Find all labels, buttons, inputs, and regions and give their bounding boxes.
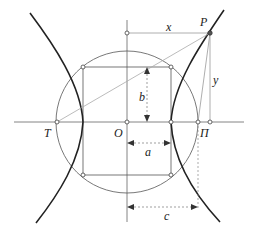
a-arrow-left: [127, 140, 134, 146]
label-O: O: [114, 126, 123, 140]
point-circle-axis: [196, 120, 200, 124]
point-rect-tl: [81, 65, 85, 69]
label-y: y: [212, 73, 219, 87]
label-b: b: [139, 90, 145, 104]
point-vertex: [169, 120, 173, 124]
label-c: c: [164, 209, 170, 223]
label-x: x: [165, 20, 172, 34]
point-Pi: [208, 120, 212, 124]
label-P: P: [199, 15, 208, 29]
label-Pi: Π: [199, 126, 210, 140]
c-arrow-left: [127, 204, 134, 210]
hyperbola-diagram: P x y b T O Π a c: [0, 0, 256, 231]
point-T: [55, 120, 59, 124]
c-arrow-right: [191, 204, 198, 210]
label-T: T: [44, 126, 52, 140]
a-arrow-right: [164, 140, 171, 146]
tangent-line-TP: [57, 33, 210, 122]
b-arrow-bottom: [144, 115, 150, 122]
point-rect-tr: [169, 65, 173, 69]
point-O: [125, 120, 129, 124]
label-a: a: [145, 145, 151, 159]
point-P: [208, 31, 212, 35]
point-rect-br: [169, 173, 173, 177]
point-rect-bl: [81, 173, 85, 177]
point-y-top: [125, 31, 129, 35]
